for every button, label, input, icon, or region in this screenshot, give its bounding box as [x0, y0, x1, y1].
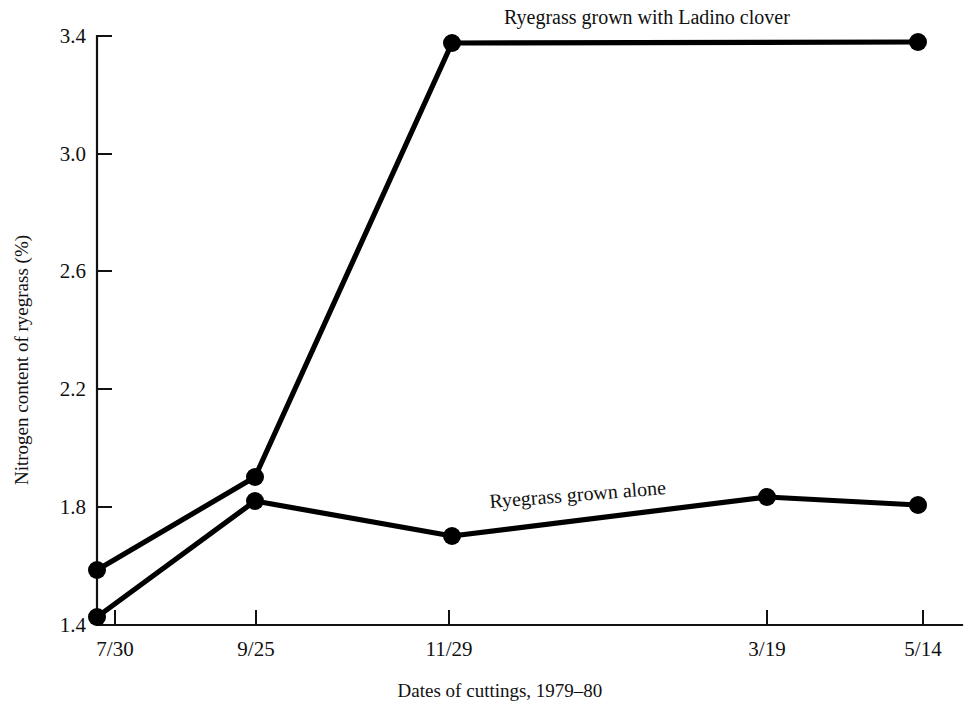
series-label-clover: Ryegrass grown with Ladino clover [504, 6, 790, 29]
data-point-alone-3-19 [758, 488, 776, 506]
data-point-alone-7-30 [88, 608, 106, 626]
x-tick-label-11-29: 11/29 [425, 637, 472, 661]
data-point-clover-7-30 [88, 561, 106, 579]
data-point-clover-9-25 [246, 468, 264, 486]
y-tick-label-1-8: 1.8 [60, 495, 86, 519]
x-tick-label-7-30: 7/30 [96, 637, 133, 661]
x-tick-label-5-14: 5/14 [904, 637, 942, 661]
y-tick-label-3-4: 3.4 [60, 24, 87, 48]
chart-canvas: 3.4 3.0 2.6 2.2 1.8 1.4 7/30 9/25 11/29 … [0, 0, 976, 721]
data-point-alone-11-29 [443, 527, 461, 545]
y-tick-label-3-0: 3.0 [60, 142, 86, 166]
data-point-clover-5-14 [909, 33, 927, 51]
data-point-alone-5-14 [909, 496, 927, 514]
y-tick-label-2-6: 2.6 [60, 259, 86, 283]
y-axis-title: Nitrogen content of ryegrass (%) [11, 235, 33, 485]
y-tick-label-1-4: 1.4 [60, 613, 87, 637]
data-point-alone-9-25 [246, 492, 264, 510]
y-tick-label-2-2: 2.2 [60, 377, 86, 401]
x-axis-title: Dates of cuttings, 1979–80 [398, 680, 603, 701]
data-point-clover-11-29 [443, 34, 461, 52]
line-chart-figure: 3.4 3.0 2.6 2.2 1.8 1.4 7/30 9/25 11/29 … [0, 0, 976, 721]
series-label-alone: Ryegrass grown alone [489, 476, 667, 513]
series-line-alone [97, 497, 918, 617]
x-tick-label-3-19: 3/19 [748, 637, 785, 661]
x-tick-label-9-25: 9/25 [237, 637, 274, 661]
